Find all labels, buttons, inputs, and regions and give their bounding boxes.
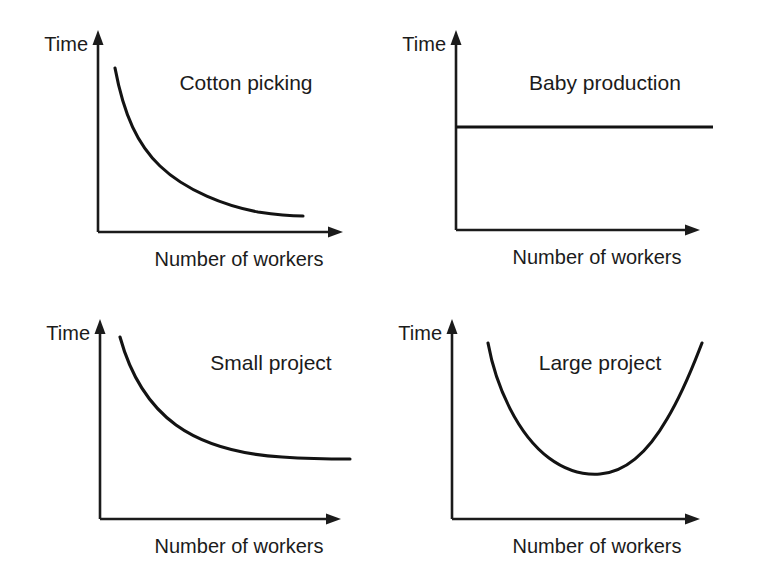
axes-group-small-project <box>95 319 342 525</box>
x-axis-label: Number of workers <box>155 535 324 557</box>
y-axis-label: Time <box>46 322 90 344</box>
panel-title: Small project <box>210 351 332 374</box>
panel-title: Large project <box>539 351 662 374</box>
chart-panel-large-project: Time Large project Number of workers <box>389 292 778 583</box>
x-axis-label: Number of workers <box>155 248 324 270</box>
chart-panel-baby-production: Time Baby production Number of workers <box>389 0 778 291</box>
y-axis-label: Time <box>402 33 446 55</box>
x-axis-label: Number of workers <box>513 246 682 268</box>
axes-group-cotton-picking <box>93 30 344 238</box>
chart-panel-cotton-picking: Time Cotton picking Number of workers <box>0 0 389 291</box>
y-axis-arrowhead <box>451 30 462 45</box>
x-axis-arrowhead <box>685 225 700 236</box>
panel-title: Cotton picking <box>179 71 312 94</box>
panel-title: Baby production <box>529 71 681 94</box>
x-axis-label: Number of workers <box>513 535 682 557</box>
y-axis-label: Time <box>44 33 88 55</box>
x-axis-arrowhead <box>685 514 700 525</box>
y-axis-arrowhead <box>95 319 106 334</box>
y-axis-label: Time <box>398 322 442 344</box>
axes-group-large-project <box>447 319 701 525</box>
x-axis-arrowhead <box>326 514 341 525</box>
y-axis-arrowhead <box>93 30 104 45</box>
x-axis-arrowhead <box>328 227 343 238</box>
chart-panel-small-project: Time Small project Number of workers <box>0 292 389 583</box>
axes-group-baby-production <box>451 30 701 236</box>
y-axis-arrowhead <box>447 319 458 334</box>
figure-root: Time Cotton picking Number of workers Ti… <box>0 0 778 583</box>
